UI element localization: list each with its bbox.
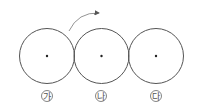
label-text: 나 (97, 92, 105, 102)
label-da: 다 (151, 91, 162, 102)
rotation-arrow-icon (69, 13, 99, 31)
center-dot (100, 55, 102, 57)
circle-ga (20, 29, 75, 84)
center-dot (155, 55, 157, 57)
center-dot (46, 55, 48, 57)
label-text: 가 (43, 92, 51, 102)
label-text: 다 (152, 92, 161, 102)
label-ga: 가 (42, 91, 53, 102)
circle-da (129, 29, 184, 84)
diagram-canvas: 가 나 다 (0, 0, 197, 111)
label-na: 나 (96, 91, 107, 102)
circle-na (74, 29, 129, 84)
